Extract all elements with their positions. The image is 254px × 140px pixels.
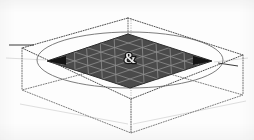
guide-upper-left <box>6 58 46 60</box>
isometric-diagram: & & <box>0 0 254 140</box>
figure-canvas: & & 3D isometric grid surface inside dot… <box>0 0 254 140</box>
center-marker-fill: & <box>124 50 137 66</box>
guide-lower-right <box>133 101 246 124</box>
center-marker-glyph: & & <box>124 50 137 66</box>
guide-lower-left <box>20 104 128 124</box>
